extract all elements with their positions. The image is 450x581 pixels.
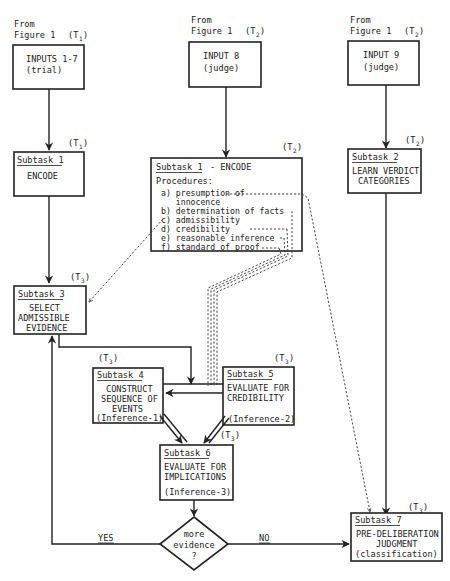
svg-text:CATEGORIES: CATEGORIES	[358, 176, 410, 186]
svg-text:(T: (T	[220, 430, 230, 440]
svg-text:CONSTRUCT: CONSTRUCT	[106, 384, 153, 394]
svg-text:- ENCODE: - ENCODE	[210, 162, 251, 172]
svg-text:): )	[113, 353, 118, 363]
yes-label: YES	[98, 533, 114, 543]
svg-text:(judge): (judge)	[203, 63, 239, 73]
svg-text:INPUT 9: INPUT 9	[363, 50, 399, 60]
svg-text:): )	[420, 135, 425, 145]
svg-text:INPUT 8: INPUT 8	[203, 51, 239, 61]
svg-text:INPUTS 1-7: INPUTS 1-7	[26, 54, 78, 64]
svg-text:SEQUENCE OF: SEQUENCE OF	[101, 394, 158, 404]
svg-text:(Inference-1): (Inference-1)	[96, 413, 163, 423]
svg-text:): )	[83, 30, 88, 40]
subtask7-box: (T 3 ) Subtask 7 PRE-DELIBERATION JUDGME…	[351, 502, 442, 561]
source-label-middle: From Figure 1 (T 2 )	[191, 15, 265, 38]
dashed-link-admissibility-to-subtask3	[89, 219, 163, 302]
svg-text:Figure 1: Figure 1	[14, 30, 55, 40]
subtask4-box: (T 3 ) Subtask 4 CONSTRUCT SEQUENCE OF E…	[93, 353, 163, 423]
svg-text:Subtask 5: Subtask 5	[227, 369, 274, 379]
svg-text:(T: (T	[98, 353, 108, 363]
svg-text:more: more	[184, 529, 205, 539]
svg-text:): )	[85, 272, 90, 282]
svg-text:Subtask 4: Subtask 4	[97, 370, 144, 380]
svg-text:SELECT: SELECT	[29, 303, 60, 313]
input-box-trial: INPUTS 1-7 (trial)	[13, 45, 84, 89]
svg-text:CREDIBILITY: CREDIBILITY	[227, 393, 285, 403]
svg-text:PRE-DELIBERATION: PRE-DELIBERATION	[356, 529, 439, 539]
procedure-f: f) standard of proof	[161, 242, 260, 252]
svg-text:(judge): (judge)	[363, 62, 399, 72]
svg-text:EVALUATE FOR: EVALUATE FOR	[227, 383, 290, 393]
svg-text:Figure 1: Figure 1	[191, 26, 232, 36]
svg-text:EVALUATE FOR: EVALUATE FOR	[164, 462, 227, 472]
svg-text:(T: (T	[245, 26, 255, 36]
svg-text:Procedures:: Procedures:	[156, 176, 213, 186]
svg-text:(T: (T	[404, 26, 414, 36]
svg-text:(T: (T	[68, 138, 78, 148]
subtask3-box: (T 3 ) Subtask 3 SELECT ADMISSIBLE EVIDE…	[14, 272, 90, 334]
svg-text:): )	[235, 430, 240, 440]
svg-text:Subtask 1: Subtask 1	[17, 155, 64, 165]
svg-text:(classification): (classification)	[355, 549, 438, 559]
source-label-left: From Figure 1 (T 1 )	[14, 19, 88, 42]
svg-text:(trial): (trial)	[26, 65, 62, 75]
svg-text:(T: (T	[408, 502, 418, 512]
subtask6-box: (T 3 ) Subtask 6 EVALUATE FOR IMPLICATIO…	[160, 430, 240, 500]
svg-text:(T: (T	[274, 353, 284, 363]
svg-text:Subtask 2: Subtask 2	[352, 152, 399, 162]
svg-text:Subtask 1: Subtask 1	[156, 162, 203, 172]
arrow-subtask4-to-subtask6-b	[164, 414, 187, 442]
svg-text:EVIDENCE: EVIDENCE	[26, 323, 67, 333]
subtask1-encode-box: (T 1 ) Subtask 1 ENCODE	[14, 138, 88, 196]
svg-text:): )	[289, 353, 294, 363]
svg-text:(T: (T	[68, 30, 78, 40]
flow-diagram: From Figure 1 (T 1 ) From Figure 1 (T 2 …	[0, 0, 450, 581]
svg-text:Subtask 6: Subtask 6	[164, 448, 211, 458]
svg-text:LEARN VERDICT: LEARN VERDICT	[352, 166, 419, 176]
svg-text:): )	[83, 138, 88, 148]
source-label-right: From Figure 1 (T 2 )	[350, 15, 424, 38]
svg-text:Subtask 7: Subtask 7	[355, 515, 402, 525]
svg-text:): )	[423, 502, 428, 512]
svg-text:From: From	[14, 19, 35, 29]
svg-text:(T: (T	[405, 135, 415, 145]
svg-text:(Inference-2): (Inference-2)	[228, 414, 295, 424]
svg-text:): )	[419, 26, 424, 36]
decision-more-evidence: more evidence ?	[160, 517, 228, 570]
arrow-subtask4-to-subtask6-a	[160, 416, 182, 443]
svg-text:(Inference-3): (Inference-3)	[164, 487, 231, 497]
no-label: NO	[259, 533, 269, 543]
svg-text:?: ?	[191, 551, 196, 561]
input-box-judge-8: INPUT 8 (judge)	[189, 42, 261, 87]
svg-text:ENCODE: ENCODE	[27, 171, 58, 181]
svg-text:(T: (T	[70, 272, 80, 282]
input-box-judge-9: INPUT 9 (judge)	[348, 41, 419, 85]
svg-text:ADMISSIBLE: ADMISSIBLE	[18, 313, 70, 323]
svg-text:Subtask 3: Subtask 3	[18, 289, 65, 299]
svg-text:evidence: evidence	[173, 540, 214, 550]
svg-text:From: From	[350, 15, 371, 25]
svg-text:Figure 1: Figure 1	[350, 26, 391, 36]
subtask5-box: (T 3 ) Subtask 5 EVALUATE FOR CREDIBILIT…	[223, 353, 295, 425]
svg-text:JUDGMENT: JUDGMENT	[376, 539, 417, 549]
svg-text:): )	[297, 142, 302, 152]
svg-text:IMPLICATIONS: IMPLICATIONS	[164, 472, 226, 482]
svg-text:(T: (T	[282, 142, 292, 152]
svg-text:From: From	[191, 15, 212, 25]
subtask1-judge-encode-box: (T 2 ) Subtask 1 - ENCODE Procedures: a)…	[151, 142, 302, 252]
svg-text:): )	[260, 26, 265, 36]
